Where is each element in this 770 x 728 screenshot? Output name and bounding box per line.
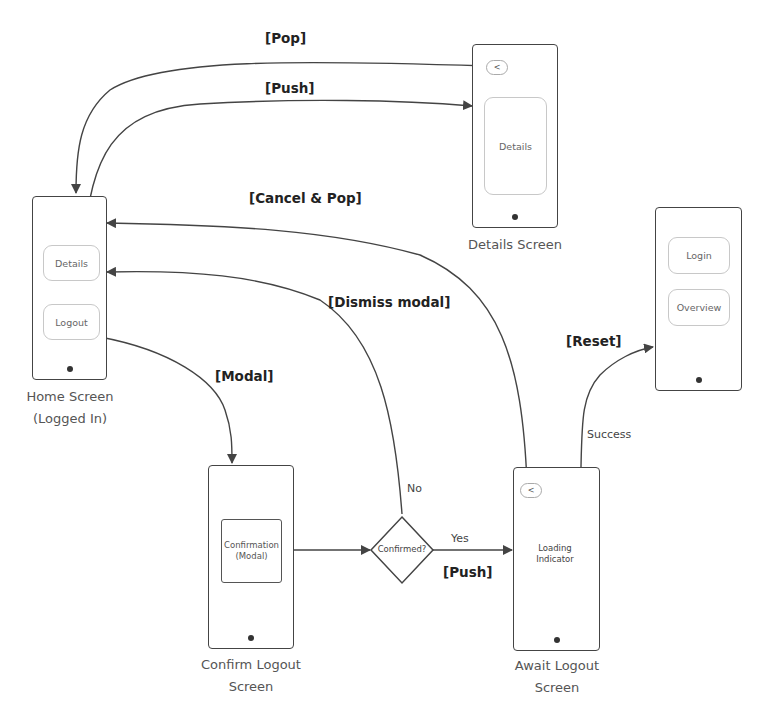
home-indicator xyxy=(554,637,560,643)
edge-reset xyxy=(581,347,653,467)
edge-label-cancel-pop: [Cancel & Pop] xyxy=(249,190,362,206)
decision-label: Confirmed? xyxy=(372,544,432,554)
await-logout-caption: Await Logout Screen xyxy=(490,655,624,699)
back-chevron-icon: < xyxy=(494,63,501,72)
decision-no-label: No xyxy=(407,482,422,495)
back-chevron-icon: < xyxy=(528,486,535,495)
details-content-label: Details xyxy=(499,141,532,152)
home-screen-caption: Home Screen (Logged In) xyxy=(14,386,126,430)
details-screen-caption: Details Screen xyxy=(455,234,575,256)
confirm-logout-screen: Confirmation (Modal) xyxy=(208,465,294,649)
details-content: Details xyxy=(484,97,547,195)
edge-label-success: Success xyxy=(587,428,631,441)
home-indicator xyxy=(248,635,254,641)
logged-out-screen: Login Overview xyxy=(655,207,742,391)
confirm-logout-caption: Confirm Logout Screen xyxy=(184,654,318,698)
edge-label-push-await: [Push] xyxy=(443,564,493,580)
overview-button[interactable]: Overview xyxy=(668,289,730,326)
details-screen: < Details xyxy=(472,44,558,228)
home-details-button[interactable]: Details xyxy=(43,245,100,281)
home-indicator xyxy=(67,366,73,372)
edge-label-reset: [Reset] xyxy=(566,333,622,349)
home-screen: Details Logout xyxy=(32,196,107,380)
decision-yes-label: Yes xyxy=(451,532,469,545)
edge-cancel-pop xyxy=(107,223,527,483)
home-logout-button[interactable]: Logout xyxy=(43,304,100,340)
home-indicator xyxy=(696,377,702,383)
edge-label-modal: [Modal] xyxy=(215,368,273,384)
details-back-button[interactable]: < xyxy=(486,60,508,75)
edge-label-push-details: [Push] xyxy=(265,80,315,96)
login-button[interactable]: Login xyxy=(668,237,730,274)
await-back-button[interactable]: < xyxy=(520,483,542,498)
edge-label-dismiss-modal: [Dismiss modal] xyxy=(328,294,450,310)
edge-push-details xyxy=(84,100,472,241)
edge-label-pop: [Pop] xyxy=(265,30,306,46)
confirmation-modal: Confirmation (Modal) xyxy=(221,519,282,583)
home-indicator xyxy=(512,214,518,220)
loading-indicator-label: Loading Indicator xyxy=(525,543,585,565)
